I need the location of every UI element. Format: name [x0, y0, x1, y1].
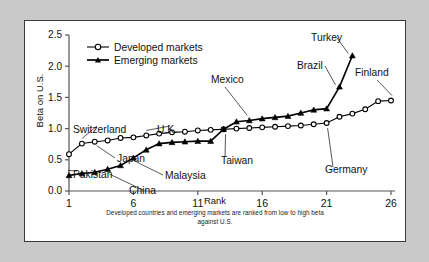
y-axis-title: Beta on U.S. — [34, 41, 45, 161]
data-point-marker — [131, 135, 136, 140]
annotation-pakistan: Pakistan — [68, 169, 113, 180]
data-point-marker — [208, 127, 213, 132]
data-point-marker — [92, 139, 97, 144]
data-point-marker — [376, 99, 381, 104]
data-point-marker — [234, 126, 239, 131]
data-point-marker — [324, 121, 329, 126]
figure-root: 0.00.51.01.52.02.51611162126Developed ma… — [0, 0, 429, 262]
legend-marker — [95, 44, 100, 49]
annotation-leader-line — [136, 162, 163, 175]
caption-line-2: against U.S. — [25, 218, 405, 225]
data-point-marker — [389, 98, 394, 103]
annotation-label: Finland — [355, 67, 389, 78]
annotation-label: Taiwan — [221, 155, 253, 166]
data-point-marker — [195, 128, 200, 133]
data-point-marker — [349, 53, 355, 58]
chart-panel: 0.00.51.01.52.02.51611162126Developed ma… — [24, 20, 406, 242]
annotation-label: U.K. — [157, 124, 177, 135]
annotation-turkey: Turkey — [311, 32, 348, 54]
y-axis-tick-label: 2.5 — [48, 29, 62, 40]
y-axis-tick-label: 0.5 — [48, 154, 62, 165]
caption-line-1: Developed countries and emerging markets… — [25, 209, 405, 216]
data-point-marker — [337, 84, 343, 89]
data-point-marker — [260, 125, 265, 130]
annotation-leader-line — [377, 80, 392, 96]
data-point-marker — [79, 141, 84, 146]
annotation-label: Pakistan — [73, 169, 113, 180]
annotation-label: Mexico — [211, 74, 244, 85]
beta-rank-line-chart: 0.00.51.01.52.02.51611162126Developed ma… — [25, 21, 404, 240]
data-point-marker — [105, 138, 110, 143]
annotation-leader-line — [325, 66, 335, 85]
legend-label: Emerging markets — [114, 55, 198, 66]
annotation-china: China — [110, 174, 157, 196]
annotation-leader-line — [97, 146, 115, 158]
data-point-marker — [183, 129, 188, 134]
annotation-label: Germany — [325, 164, 368, 175]
chart-legend: Developed marketsEmerging markets — [87, 42, 203, 66]
annotation-leader-line — [225, 87, 247, 115]
data-point-marker — [363, 107, 368, 112]
data-point-marker — [311, 122, 316, 127]
annotation-uk: U.K. — [146, 124, 177, 135]
annotation-label: Brazil — [297, 60, 323, 71]
annotation-germany: Germany — [325, 128, 368, 175]
annotation-taiwan: Taiwan — [221, 134, 253, 166]
data-point-marker — [273, 124, 278, 129]
y-axis-tick-label: 2.0 — [48, 61, 62, 72]
annotation-label: Switzerland — [73, 124, 126, 135]
data-point-marker — [298, 123, 303, 128]
data-point-marker — [350, 111, 355, 116]
annotation-japan: Japan — [97, 146, 146, 164]
y-axis-tick-label: 1.5 — [48, 92, 62, 103]
legend-label: Developed markets — [114, 42, 203, 53]
annotation-brazil: Brazil — [297, 60, 335, 85]
data-point-marker — [286, 124, 291, 129]
y-axis-tick-label: 1.0 — [48, 123, 62, 134]
annotation-leader-line — [225, 134, 226, 157]
annotation-mexico: Mexico — [211, 74, 247, 115]
x-axis-title: Rank — [25, 195, 405, 206]
data-point-marker — [144, 133, 149, 138]
annotation-malaysia: Malaysia — [136, 162, 206, 181]
annotation-label: Malaysia — [165, 170, 206, 181]
data-point-marker — [118, 136, 123, 141]
data-point-marker — [337, 114, 342, 119]
annotation-label: Turkey — [311, 32, 343, 43]
data-point-marker — [67, 152, 72, 157]
series-emerging-markets — [66, 53, 355, 178]
annotation-leader-line — [328, 128, 333, 167]
annotation-finland: Finland — [355, 67, 392, 96]
annotation-label: Japan — [117, 153, 145, 164]
data-point-marker — [247, 126, 252, 131]
